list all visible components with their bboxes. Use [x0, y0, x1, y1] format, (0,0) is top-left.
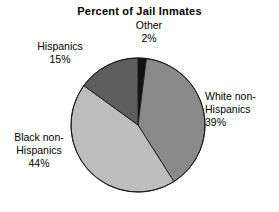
slice-label-hispanics: Hispanics 15% — [22, 40, 98, 66]
slice-label-other: Other 2% — [118, 19, 180, 45]
slice-label-white-non-hispanics: White non- Hispanics 39% — [205, 90, 277, 129]
pie-slice-group — [71, 58, 205, 192]
pie-chart-figure: Percent of Jail Inmates Other 2% Hispani… — [0, 0, 279, 212]
slice-label-black-non-hispanics: Black non- Hispanics 44% — [0, 131, 78, 170]
